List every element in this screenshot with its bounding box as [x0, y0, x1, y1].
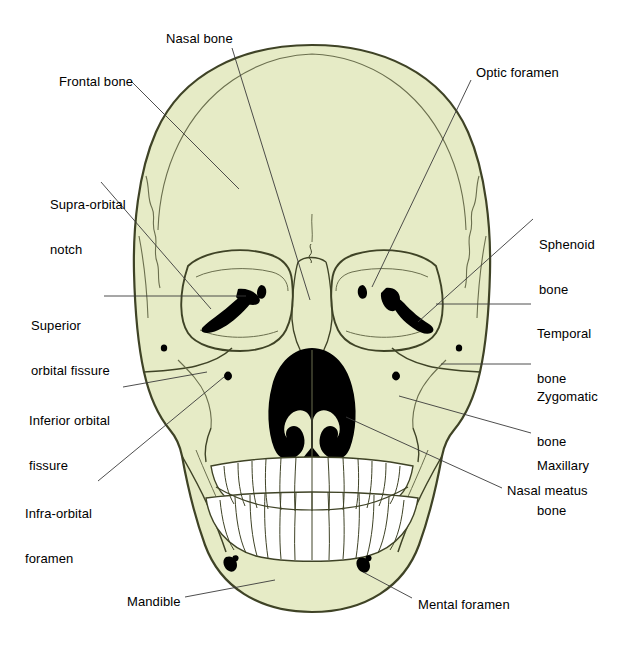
- label-infra-orbital-foramen-line1: Infra-orbital: [25, 506, 92, 521]
- label-infra-orbital-foramen: Infra-orbital foramen: [25, 476, 92, 596]
- infra-orbital-foramen-right-mark: [392, 372, 400, 381]
- label-mental-foramen: Mental foramen: [418, 597, 510, 612]
- suture-metopic: [312, 214, 313, 242]
- skull-body: [134, 45, 490, 612]
- label-maxillary-bone-line2: bone: [537, 503, 589, 518]
- infra-orbital-foramen-left-mark: [224, 372, 232, 381]
- skull-diagram-page: Nasal bone Frontal bone Optic foramen Su…: [0, 0, 625, 656]
- supra-orbital-notch-left-mark: [161, 344, 167, 351]
- label-mandible: Mandible: [127, 594, 181, 609]
- label-inferior-orbital-fissure-line2: fissure: [29, 458, 110, 473]
- supra-orbital-notch-right-mark: [456, 344, 462, 351]
- label-sphenoid-bone-line2: bone: [539, 282, 595, 297]
- label-frontal-bone: Frontal bone: [59, 74, 133, 89]
- label-supra-orbital-notch-line2: notch: [50, 242, 126, 257]
- label-sphenoid-bone-line1: Sphenoid: [539, 237, 595, 252]
- label-optic-foramen: Optic foramen: [476, 65, 559, 80]
- label-nasal-meatus: Nasal meatus: [507, 483, 588, 498]
- label-zygomatic-bone-line1: Zygomatic: [537, 389, 598, 404]
- label-superior-orbital-fissure-line2: orbital fissure: [31, 363, 110, 378]
- label-superior-orbital-fissure-line1: Superior: [31, 318, 110, 333]
- label-supra-orbital-notch: Supra-orbital notch: [50, 167, 126, 287]
- label-temporal-bone-line1: Temporal: [537, 326, 591, 341]
- label-infra-orbital-foramen-line2: foramen: [25, 551, 92, 566]
- label-supra-orbital-notch-line1: Supra-orbital: [50, 197, 126, 212]
- label-nasal-bone: Nasal bone: [166, 31, 233, 46]
- label-maxillary-bone-line1: Maxillary: [537, 458, 589, 473]
- label-inferior-orbital-fissure-line1: Inferior orbital: [29, 413, 110, 428]
